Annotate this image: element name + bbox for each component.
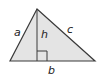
label-side-c: c	[67, 23, 73, 36]
label-base-b: b	[48, 64, 55, 77]
label-altitude-h: h	[41, 28, 48, 41]
triangle-diagram: a h c b	[0, 0, 101, 78]
triangle	[10, 9, 95, 61]
label-side-a: a	[14, 26, 21, 39]
